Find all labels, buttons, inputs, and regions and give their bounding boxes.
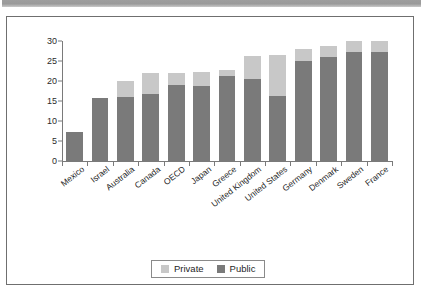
x-tick-label: Canada [132, 164, 162, 190]
bar-group[interactable] [142, 41, 159, 161]
bar-segment-public[interactable] [371, 52, 388, 161]
bar-group[interactable] [244, 41, 261, 161]
bar-group[interactable] [320, 41, 337, 161]
bar-segment-public[interactable] [219, 76, 236, 161]
bar-segment-private[interactable] [193, 72, 210, 86]
x-tick-label: Sweden [335, 164, 365, 191]
bar-segment-private[interactable] [371, 41, 388, 52]
bar-segment-private[interactable] [244, 56, 261, 79]
bar-segment-private[interactable] [269, 55, 286, 96]
bar-segment-public[interactable] [346, 52, 363, 161]
legend-label-private: Private [174, 264, 204, 274]
legend-item-public[interactable]: Public [217, 264, 256, 274]
public-swatch [217, 265, 225, 273]
bar-group[interactable] [66, 41, 83, 161]
plot-area: 051015202530 [62, 41, 392, 161]
bar-segment-public[interactable] [269, 96, 286, 161]
bar-segment-public[interactable] [193, 86, 210, 161]
bar-segment-public[interactable] [117, 97, 134, 161]
bar-group[interactable] [371, 41, 388, 161]
bar-group[interactable] [269, 41, 286, 161]
bar-segment-public[interactable] [320, 57, 337, 161]
legend-item-private[interactable]: Private [161, 264, 204, 274]
decorative-top-band [2, 0, 421, 7]
bar-group[interactable] [346, 41, 363, 161]
x-tick-label: OECD [162, 164, 188, 187]
bar-segment-private[interactable] [295, 49, 312, 61]
legend-label-public: Public [230, 264, 256, 274]
bar-group[interactable] [117, 41, 134, 161]
bar-segment-public[interactable] [168, 85, 185, 161]
bar-segment-private[interactable] [142, 73, 159, 94]
bar-group[interactable] [92, 41, 109, 161]
bar-segment-public[interactable] [92, 98, 109, 161]
bar-segment-public[interactable] [295, 61, 312, 161]
bar-segment-private[interactable] [168, 73, 185, 85]
chart-legend: Private Public [151, 260, 265, 278]
bar-group[interactable] [295, 41, 312, 161]
x-tick-label: France [363, 164, 390, 188]
chart-figure: 051015202530 MexicoIsraelAustraliaCanada… [0, 0, 423, 295]
bar-segment-public[interactable] [66, 132, 83, 161]
bar-segment-public[interactable] [244, 79, 261, 161]
x-axis-labels: MexicoIsraelAustraliaCanadaOECDJapanGree… [62, 164, 393, 224]
figure-frame: 051015202530 MexicoIsraelAustraliaCanada… [6, 16, 414, 285]
bar-group[interactable] [219, 41, 236, 161]
private-swatch [161, 265, 169, 273]
bar-segment-private[interactable] [320, 46, 337, 57]
bar-series-layer [62, 41, 392, 161]
bar-segment-public[interactable] [142, 94, 159, 161]
bar-segment-private[interactable] [346, 41, 363, 52]
bar-segment-private[interactable] [117, 81, 134, 97]
bar-group[interactable] [168, 41, 185, 161]
x-tick-label: Mexico [58, 164, 85, 188]
x-tick-label: Japan [188, 164, 212, 186]
bar-group[interactable] [193, 41, 210, 161]
